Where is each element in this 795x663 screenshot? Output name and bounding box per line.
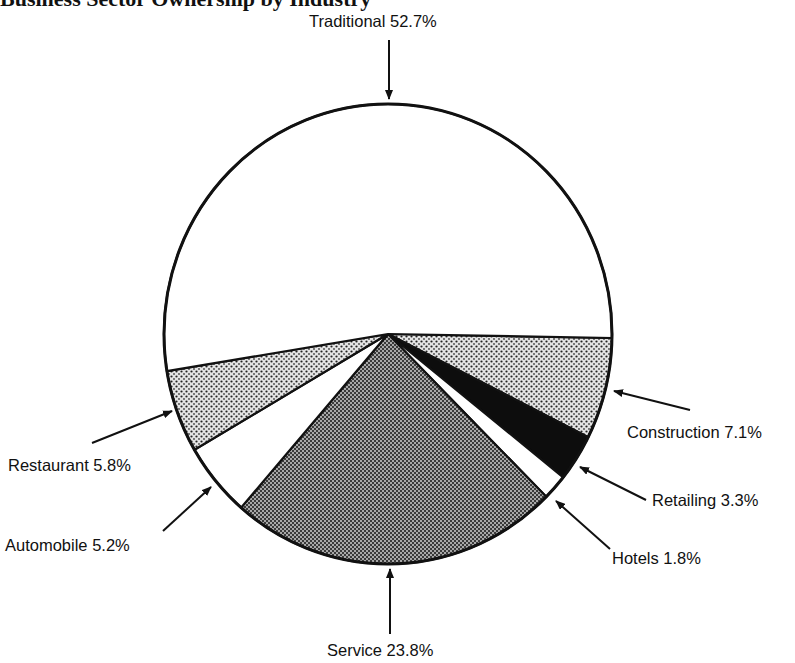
- slice-label-hotels: Hotels 1.8%: [612, 549, 701, 567]
- callout-arrow-restaurant: [92, 411, 172, 443]
- slice-label-restaurant: Restaurant 5.8%: [8, 456, 131, 474]
- slice-label-automobile: Automobile 5.2%: [5, 536, 130, 554]
- callout-arrow-construction: [614, 391, 690, 410]
- chart-title: Business Sector Ownership by Industry: [0, 0, 371, 11]
- slice-label-retailing: Retailing 3.3%: [652, 491, 759, 509]
- callout-arrow-retailing: [580, 467, 646, 500]
- slice-label-traditional: Traditional 52.7%: [309, 12, 437, 30]
- slice-label-construction: Construction 7.1%: [627, 423, 762, 441]
- callout-arrow-automobile: [163, 487, 211, 531]
- pie-slice-traditional: [164, 104, 612, 371]
- pie-chart: Business Sector Ownership by Industry Co…: [0, 0, 795, 663]
- pie-slices: [164, 104, 612, 564]
- callout-arrow-hotels: [556, 501, 610, 549]
- slice-label-service: Service 23.8%: [327, 641, 434, 659]
